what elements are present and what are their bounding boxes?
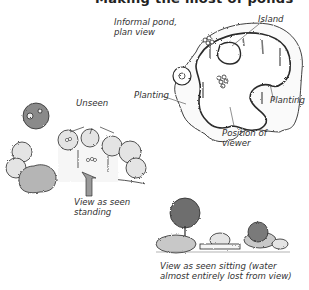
label-island: Island — [258, 14, 284, 24]
label-sitting: View as seen sitting (water almost entir… — [160, 261, 292, 281]
label-planting-right: Planting — [270, 95, 305, 105]
pond-water-thin — [200, 244, 240, 249]
shrub-front-dark — [19, 165, 56, 193]
shrub — [272, 239, 288, 249]
shrub — [126, 158, 146, 178]
shrub-dark — [248, 222, 268, 242]
tree-dark — [170, 198, 200, 228]
island — [218, 42, 241, 64]
planting-flower — [173, 67, 191, 85]
shrub — [156, 235, 196, 253]
sitting-view — [156, 198, 288, 253]
label-unseen: Unseen — [76, 98, 108, 108]
label-standing: View as seen standing — [74, 197, 130, 217]
label-position-of-viewer: Position of viewer — [222, 128, 267, 148]
standing-view — [6, 103, 146, 193]
label-planting-left: Planting — [134, 90, 169, 100]
pond-plan-view — [173, 23, 302, 141]
label-plan-view: Informal pond, plan view — [114, 17, 177, 37]
shrub — [81, 129, 99, 147]
